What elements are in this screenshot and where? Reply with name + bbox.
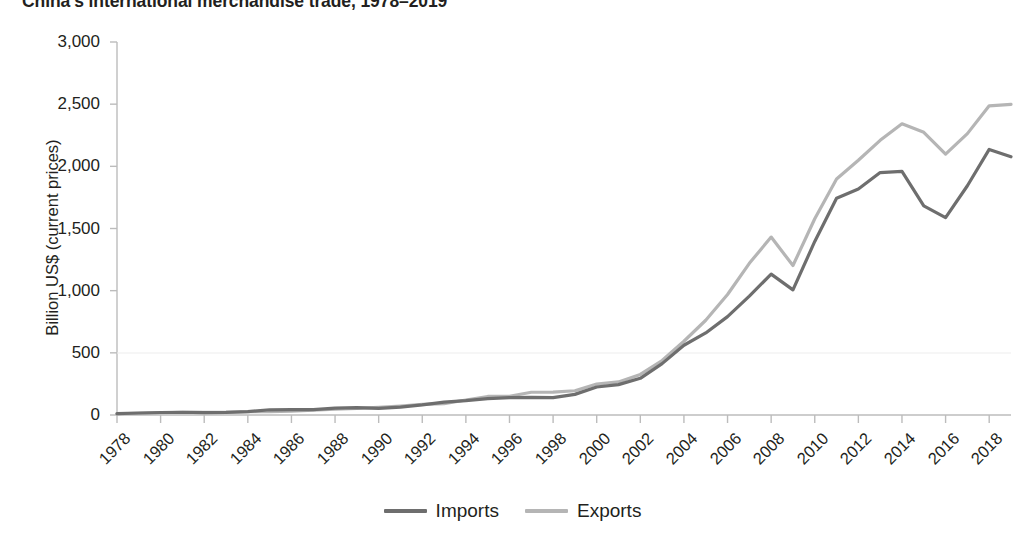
y-axis-ticks: [110, 42, 117, 415]
series-line-imports: [117, 149, 1011, 413]
legend-label: Exports: [577, 500, 641, 522]
series-line-exports: [117, 104, 1011, 413]
chart-figure: China's international merchandise trade,…: [0, 0, 1025, 545]
legend-swatch-exports-icon: [525, 509, 568, 513]
legend-swatch-imports-icon: [384, 509, 427, 513]
legend-label: Imports: [436, 500, 499, 522]
axis-lines: [117, 42, 1011, 415]
legend-item-imports[interactable]: Imports: [384, 500, 499, 522]
chart-legend: ImportsExports: [0, 500, 1025, 522]
series-lines: [117, 104, 1011, 413]
x-axis-ticks: [117, 415, 989, 423]
legend-item-exports[interactable]: Exports: [525, 500, 641, 522]
